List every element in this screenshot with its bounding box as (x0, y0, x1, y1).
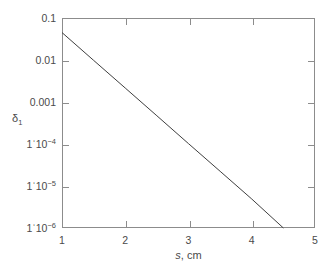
x-axis-title: s, cm (62, 250, 315, 261)
y-tick-label-mantissa: 1ˈ10 (26, 138, 47, 150)
y-tick-label: 0.001 (0, 97, 56, 108)
x-axis-title-units: , cm (181, 249, 202, 261)
y-tick-label: 1ˈ10−4 (0, 139, 56, 150)
x-tick-label: 2 (113, 235, 137, 246)
y-tick-label-exponent: −4 (47, 136, 56, 145)
x-tick-label: 3 (177, 235, 201, 246)
y-tick-label-exponent: −5 (47, 178, 56, 187)
y-axis-title: δ1 (12, 113, 22, 124)
data-series-line (62, 18, 315, 228)
y-tick-label-exponent: −6 (47, 220, 56, 229)
y-axis-title-subscript: 1 (18, 118, 22, 127)
y-tick-label: 1ˈ10−5 (0, 181, 56, 192)
chart-figure: δ1 0.10.010.0011ˈ10−41ˈ10−51ˈ10−6 12345 … (0, 0, 334, 272)
x-tick-label: 5 (303, 235, 327, 246)
y-tick-label-mantissa: 1ˈ10 (26, 222, 47, 234)
y-tick-label: 0.01 (0, 55, 56, 66)
y-tick-label-mantissa: 1ˈ10 (26, 180, 47, 192)
y-tick-label: 1ˈ10−6 (0, 223, 56, 234)
x-tick-label: 1 (50, 235, 74, 246)
series-polyline (62, 33, 283, 228)
x-tick-label: 4 (240, 235, 264, 246)
y-tick-label: 0.1 (0, 13, 56, 24)
